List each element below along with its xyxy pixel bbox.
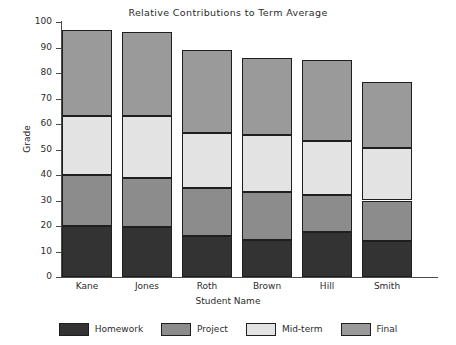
bar-segment-final — [62, 30, 112, 117]
bar-stack — [62, 22, 112, 277]
bar-segment-project — [182, 188, 232, 236]
bar-segment-mid-term — [62, 116, 112, 175]
bar-segment-final — [122, 32, 172, 116]
bar-segment-project — [302, 195, 352, 232]
y-tick-label: 60 — [12, 119, 52, 128]
bar-segment-homework — [242, 240, 292, 277]
bar-segment-homework — [182, 236, 232, 277]
bar-stack — [302, 22, 352, 277]
bar-segment-homework — [122, 227, 172, 277]
y-tick-label: 50 — [12, 145, 52, 154]
bar-segment-project — [242, 192, 292, 240]
bar-segment-mid-term — [362, 148, 412, 200]
chart-legend: HomeworkProjectMid-termFinal — [0, 319, 456, 339]
bar-segment-mid-term — [122, 116, 172, 177]
y-tick-label: 0 — [12, 272, 52, 281]
bar-segment-mid-term — [182, 133, 232, 188]
stacked-bar-chart: Relative Contributions to Term Average G… — [0, 0, 456, 345]
bar-segment-final — [362, 82, 412, 148]
legend-swatch-icon — [161, 323, 191, 336]
bar-segment-homework — [302, 232, 352, 277]
y-tick-label: 80 — [12, 68, 52, 77]
bar-segment-project — [122, 178, 172, 228]
bar-segment-mid-term — [242, 135, 292, 191]
legend-swatch-icon — [59, 323, 89, 336]
bar-segment-final — [302, 60, 352, 140]
bar-segment-final — [242, 58, 292, 136]
bar-stack — [182, 22, 232, 277]
bar-segment-homework — [362, 241, 412, 277]
legend-entry[interactable]: Mid-term — [246, 323, 323, 336]
y-tick-label: 100 — [12, 17, 52, 26]
x-axis-title: Student Name — [0, 296, 456, 306]
y-tick-label: 30 — [12, 196, 52, 205]
legend-swatch-icon — [246, 323, 276, 336]
y-tick-label: 40 — [12, 170, 52, 179]
bar-segment-final — [182, 50, 232, 133]
legend-entry[interactable]: Final — [341, 323, 398, 336]
y-tick-label: 70 — [12, 94, 52, 103]
x-axis-line — [61, 277, 438, 278]
legend-label: Final — [377, 324, 398, 334]
bar-segment-mid-term — [302, 141, 352, 196]
x-tick-label: Smith — [352, 281, 422, 291]
legend-entry[interactable]: Project — [161, 323, 228, 336]
y-tick-label: 90 — [12, 43, 52, 52]
bar-stack — [362, 22, 412, 277]
y-axis-title: Grade — [22, 104, 32, 174]
bar-stack — [242, 22, 292, 277]
bar-segment-homework — [62, 226, 112, 277]
bar-segment-project — [362, 201, 412, 242]
y-tick-label: 20 — [12, 221, 52, 230]
legend-entry[interactable]: Homework — [59, 323, 143, 336]
plot-area — [62, 22, 432, 277]
y-tick-label: 10 — [12, 247, 52, 256]
bar-segment-project — [62, 175, 112, 226]
legend-label: Mid-term — [282, 324, 323, 334]
legend-label: Homework — [95, 324, 143, 334]
legend-swatch-icon — [341, 323, 371, 336]
legend-label: Project — [197, 324, 228, 334]
bar-stack — [122, 22, 172, 277]
chart-title: Relative Contributions to Term Average — [0, 7, 456, 18]
y-tick-mark — [56, 277, 62, 278]
